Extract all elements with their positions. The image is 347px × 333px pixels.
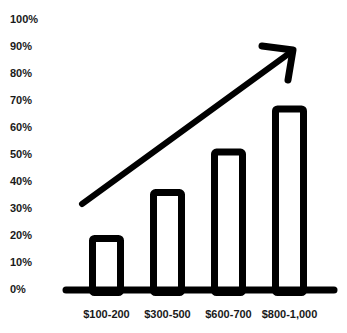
x-tick-label: $300-500 bbox=[144, 308, 191, 320]
y-tick-label: 80% bbox=[10, 67, 32, 79]
bar bbox=[276, 109, 304, 293]
bar bbox=[93, 239, 121, 293]
y-tick-label: 70% bbox=[10, 94, 32, 106]
y-tick-label: 0% bbox=[10, 283, 26, 295]
x-tick-label: $100-200 bbox=[83, 308, 130, 320]
y-tick-label: 50% bbox=[10, 148, 32, 160]
x-tick-label: $600-700 bbox=[205, 308, 252, 320]
x-tick-label: $800-1,000 bbox=[262, 308, 318, 320]
y-tick-label: 20% bbox=[10, 229, 32, 241]
y-tick-label: 90% bbox=[10, 40, 32, 52]
y-tick-label: 60% bbox=[10, 121, 32, 133]
y-tick-label: 30% bbox=[10, 202, 32, 214]
chart-canvas bbox=[0, 0, 347, 333]
trend-arrow-icon bbox=[82, 46, 293, 204]
bar bbox=[154, 193, 182, 293]
bar-chart: 0%10%20%30%40%50%60%70%80%90%100% $100-2… bbox=[0, 0, 347, 333]
y-tick-label: 10% bbox=[10, 256, 32, 268]
bar bbox=[215, 152, 243, 292]
y-tick-label: 100% bbox=[10, 13, 38, 25]
y-tick-label: 40% bbox=[10, 175, 32, 187]
